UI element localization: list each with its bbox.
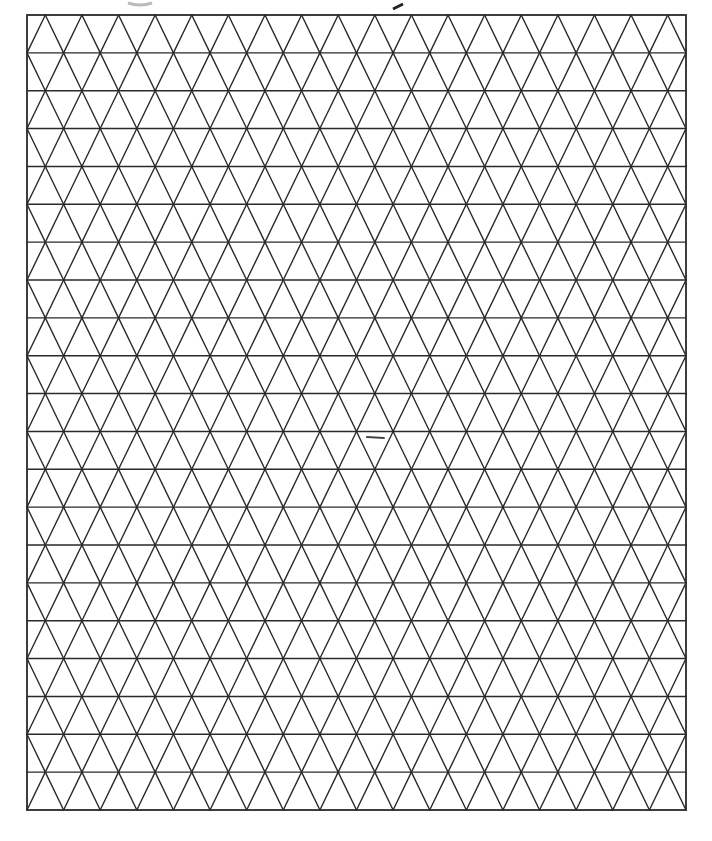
grid-line (375, 53, 393, 91)
grid-line (521, 772, 539, 810)
grid-line (210, 204, 228, 242)
grid-line (411, 166, 429, 204)
grid-line (338, 469, 356, 507)
grid-line (210, 280, 228, 318)
grid-line (448, 772, 466, 810)
grid-line (82, 242, 100, 280)
grid-line (668, 242, 686, 280)
grid-line (448, 394, 466, 432)
grid-line (27, 242, 45, 280)
grid-line (210, 242, 228, 280)
grid-line (137, 772, 155, 810)
grid-line (466, 356, 484, 394)
grid-line (613, 469, 631, 507)
grid-line (594, 91, 612, 129)
grid-line (631, 53, 649, 91)
grid-line (64, 394, 82, 432)
grid-line (302, 734, 320, 772)
grid-line (283, 280, 301, 318)
grid-line (82, 772, 100, 810)
grid-line (82, 469, 100, 507)
grid-line (192, 394, 210, 432)
grid-line (173, 280, 191, 318)
grid-line (540, 166, 558, 204)
grid-line (466, 621, 484, 659)
grid-line (430, 545, 448, 583)
grid-line (228, 204, 246, 242)
grid-line (228, 469, 246, 507)
grid-line (558, 356, 576, 394)
grid-line (448, 166, 466, 204)
grid-line (485, 394, 503, 432)
grid-line (283, 318, 301, 356)
grid-line (210, 394, 228, 432)
grid-line (283, 129, 301, 167)
grid-line (210, 431, 228, 469)
grid-line (430, 91, 448, 129)
grid-line (82, 621, 100, 659)
grid-line (430, 280, 448, 318)
grid-line (192, 91, 210, 129)
grid-line (668, 166, 686, 204)
grid-line (540, 734, 558, 772)
grid-line (613, 394, 631, 432)
grid-line (27, 129, 45, 167)
triangle-grid-paper (0, 0, 712, 841)
grid-line (594, 280, 612, 318)
grid-line (521, 53, 539, 91)
grid-line (485, 431, 503, 469)
grid-line (45, 129, 63, 167)
grid-line (210, 659, 228, 697)
grid-line (668, 318, 686, 356)
grid-line (521, 356, 539, 394)
grid-line (503, 507, 521, 545)
grid-line (540, 280, 558, 318)
grid-line (430, 242, 448, 280)
grid-line (173, 734, 191, 772)
grid-line (649, 734, 667, 772)
grid-line (137, 166, 155, 204)
grid-lines (27, 15, 686, 810)
grid-line (540, 242, 558, 280)
grid-line (375, 242, 393, 280)
grid-line (100, 242, 118, 280)
grid-line (119, 166, 137, 204)
grid-line (393, 696, 411, 734)
grid-line (320, 696, 338, 734)
grid-line (558, 129, 576, 167)
grid-line (668, 15, 686, 53)
grid-line (594, 734, 612, 772)
grid-line (27, 696, 45, 734)
grid-line (247, 394, 265, 432)
grid-line (247, 545, 265, 583)
grid-line (668, 356, 686, 394)
grid-line (100, 431, 118, 469)
grid-line (540, 129, 558, 167)
grid-line (613, 242, 631, 280)
grid-line (137, 621, 155, 659)
grid-line (357, 696, 375, 734)
grid-line (119, 696, 137, 734)
grid-line (558, 583, 576, 621)
grid-line (119, 356, 137, 394)
grid-line (613, 91, 631, 129)
grid-line (631, 696, 649, 734)
grid-line (302, 204, 320, 242)
grid-line (265, 734, 283, 772)
grid-line (393, 53, 411, 91)
grid-line (338, 91, 356, 129)
grid-line (485, 53, 503, 91)
grid-line (137, 356, 155, 394)
grid-line (338, 431, 356, 469)
grid-line (357, 659, 375, 697)
grid-line (45, 91, 63, 129)
grid-line (173, 129, 191, 167)
grid-line (613, 507, 631, 545)
grid-line (82, 507, 100, 545)
grid-line (64, 621, 82, 659)
grid-line (64, 734, 82, 772)
grid-line (228, 507, 246, 545)
grid-line (430, 431, 448, 469)
grid-line (393, 15, 411, 53)
grid-line (247, 204, 265, 242)
